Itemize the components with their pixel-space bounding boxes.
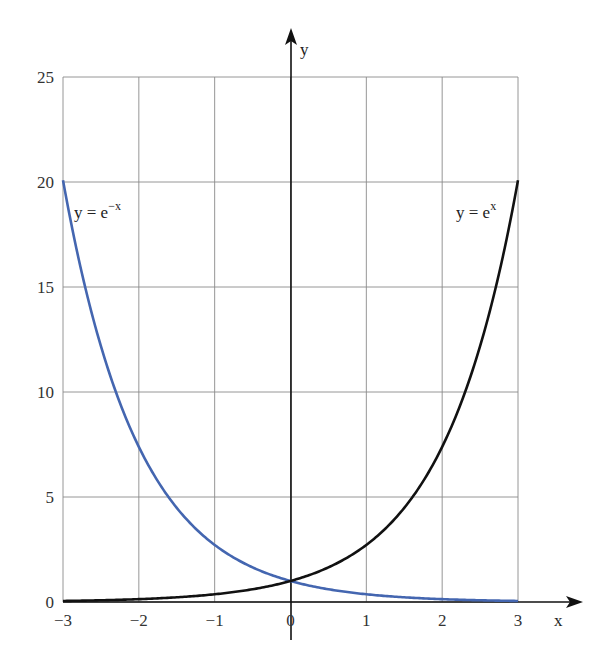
y-tick-label: 10 [37,383,54,402]
y-tick-label: 25 [37,68,54,87]
x-axis-label: x [554,611,563,630]
x-tick-label: 1 [362,611,371,630]
tick-labels: −3−2−101230510152025 [37,68,522,630]
exponential-chart: x y −3−2−101230510152025 y = e−x y = ex [0,0,614,661]
y-tick-label: 15 [37,278,54,297]
curve-label-exp: y = ex [456,199,496,222]
curve-labels: y = e−x y = ex [74,199,496,222]
x-tick-label: −1 [206,611,224,630]
y-axis-label: y [300,40,309,59]
axes: x y [63,28,583,640]
x-tick-label: 2 [438,611,447,630]
x-tick-label: −3 [54,611,72,630]
y-tick-label: 20 [37,173,54,192]
y-tick-label: 5 [46,488,55,507]
y-tick-label: 0 [46,593,55,612]
curve-label-exp-neg: y = e−x [74,199,121,222]
x-tick-label: 3 [514,611,523,630]
x-tick-label: 0 [286,611,295,630]
x-tick-label: −2 [130,611,148,630]
